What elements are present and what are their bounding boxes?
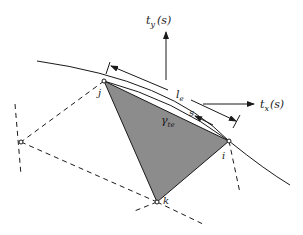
le-dimension-tick-i xyxy=(233,115,240,128)
label-ty: ty(s) xyxy=(146,14,171,29)
node-j xyxy=(102,79,106,83)
node-i xyxy=(227,139,231,143)
diagram-canvas: ty(s) tx(s) le s γte j i k xyxy=(0,0,303,235)
shaded-triangle-element xyxy=(104,81,229,202)
label-node-j: j xyxy=(96,87,101,98)
le-dimension-tick-j xyxy=(106,62,110,74)
label-s: s xyxy=(189,107,194,118)
label-node-i: i xyxy=(222,150,225,161)
label-tx: tx(s) xyxy=(260,98,284,113)
label-node-k: k xyxy=(163,195,169,206)
finite-element-diagram: ty(s) tx(s) le s γte j i k xyxy=(0,0,303,235)
node-left xyxy=(19,140,23,144)
node-k xyxy=(155,200,159,204)
label-le: le xyxy=(176,88,184,103)
le-arrow-left xyxy=(111,66,168,90)
